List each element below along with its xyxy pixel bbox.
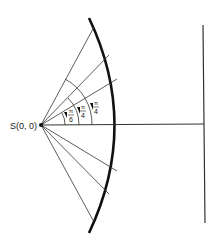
angle-label-pi-4-outer: π 4 [93,100,99,115]
svg-text:6: 6 [69,116,73,123]
svg-text:4: 4 [81,112,85,119]
angle-arcs [62,79,92,125]
source-point [39,123,43,127]
diagram: S(0, 0) π 6 π 4 π 4 [0,0,215,249]
svg-text:π: π [81,104,85,110]
svg-text:4: 4 [94,108,98,115]
optical-axis [41,124,204,125]
angle-label-pi-4-inner: π 4 [80,104,86,119]
angle-label-pi-6: π 6 [68,108,74,123]
source-label: S(0, 0) [10,121,37,131]
svg-text:π: π [94,100,98,106]
svg-text:π: π [69,108,73,114]
curved-mirror-arc [89,18,115,233]
